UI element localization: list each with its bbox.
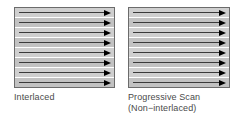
scan-row (129, 18, 229, 28)
arrow-right-icon (104, 60, 111, 66)
scan-panel-interlaced (14, 7, 115, 88)
scan-row (15, 48, 114, 58)
scan-row (15, 58, 114, 68)
scan-row (15, 28, 114, 38)
scan-panel-progressive (128, 7, 230, 88)
scan-rows-interlaced (15, 8, 114, 87)
panel-group-interlaced: Interlaced (14, 0, 115, 124)
scan-row (129, 68, 229, 78)
scan-line (19, 32, 104, 33)
arrow-right-icon (219, 60, 226, 66)
scan-row (129, 78, 229, 87)
scan-line (19, 62, 104, 63)
scan-line (19, 12, 104, 13)
scan-line (133, 12, 219, 13)
scan-row (15, 18, 114, 28)
scan-row (129, 48, 229, 58)
arrow-right-icon (104, 40, 111, 46)
arrow-right-icon (219, 70, 226, 76)
scan-row (129, 58, 229, 68)
caption-interlaced: Interlaced (14, 92, 55, 103)
arrow-right-icon (104, 30, 111, 36)
scan-line (19, 52, 104, 53)
arrow-right-icon (104, 50, 111, 56)
panel-group-progressive: Progressive Scan (Non−interlaced) (128, 0, 230, 124)
scan-line (133, 82, 219, 83)
caption-line: Interlaced (14, 92, 55, 103)
scan-line (19, 82, 104, 83)
caption-line: (Non−interlaced) (128, 103, 200, 114)
arrow-right-icon (104, 10, 111, 16)
scan-line (19, 22, 104, 23)
scan-row (129, 38, 229, 48)
arrow-right-icon (104, 70, 111, 76)
arrow-right-icon (219, 10, 226, 16)
scan-line (19, 42, 104, 43)
scan-row (15, 68, 114, 78)
scan-line (19, 72, 104, 73)
arrow-right-icon (219, 20, 226, 26)
caption-line: Progressive Scan (128, 92, 200, 103)
arrow-right-icon (104, 80, 111, 86)
scan-line (133, 72, 219, 73)
scan-row (129, 28, 229, 38)
scan-row (129, 8, 229, 18)
caption-progressive: Progressive Scan (Non−interlaced) (128, 92, 200, 114)
arrow-right-icon (219, 80, 226, 86)
scan-line (133, 32, 219, 33)
scan-line (133, 22, 219, 23)
arrow-right-icon (219, 40, 226, 46)
scan-line (133, 62, 219, 63)
scan-line (133, 42, 219, 43)
arrow-right-icon (219, 50, 226, 56)
arrow-right-icon (219, 30, 226, 36)
scan-row (15, 78, 114, 87)
arrow-right-icon (104, 20, 111, 26)
scan-row (15, 8, 114, 18)
scan-line (133, 52, 219, 53)
scan-rows-progressive (129, 8, 229, 87)
scan-row (15, 38, 114, 48)
scan-comparison-diagram: Interlaced (0, 0, 242, 124)
